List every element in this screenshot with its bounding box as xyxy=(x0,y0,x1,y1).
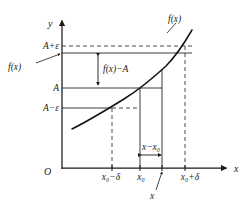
x-tick-label-x0-plus-delta: x₀+δ xyxy=(180,172,200,182)
origin-label: O xyxy=(44,166,51,177)
limit-definition-figure: y x O A+ε A A−ε x₀−δ x₀ x₀+δ f(x)−A x−x₀… xyxy=(0,0,250,204)
function-curve xyxy=(72,30,192,129)
y-tick-label-a-plus-epsilon: A+ε xyxy=(42,41,59,51)
vertical-gap-label: f(x)−A xyxy=(103,64,129,75)
y-tick-label-a: A xyxy=(52,83,59,93)
x-axis-label: x xyxy=(233,163,239,174)
figure-canvas: y x O A+ε A A−ε x₀−δ x₀ x₀+δ f(x)−A x−x₀… xyxy=(0,0,250,204)
x-point-callout-leader xyxy=(156,172,162,190)
horizontal-gap-label: x−x₀ xyxy=(141,142,160,152)
level-guides xyxy=(62,46,192,108)
y-axis-label: y xyxy=(47,18,53,29)
fx-point-callout-label: f(x) xyxy=(8,62,21,73)
x-tick-label-x0-minus-delta: x₀−δ xyxy=(101,172,121,182)
fx-point-callout-leader xyxy=(36,54,60,63)
curve-label: f(x) xyxy=(168,14,181,25)
y-tick-label-a-minus-epsilon: A−ε xyxy=(42,103,59,113)
x-point-callout-label: x xyxy=(149,191,155,201)
x-tick-label-x0: x₀ xyxy=(136,172,145,182)
curve-label-leader xyxy=(167,23,176,33)
